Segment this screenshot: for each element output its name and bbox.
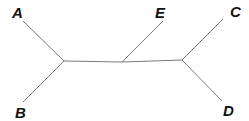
edge-leaf-b — [23, 61, 64, 102]
edge-leaf-e — [122, 21, 163, 62]
leaf-edges — [23, 19, 223, 102]
phylogenetic-tree: A B E C D — [0, 0, 249, 121]
leaf-label-c: C — [230, 3, 242, 20]
edge-n1-n2 — [64, 61, 122, 62]
leaf-label-e: E — [155, 4, 166, 21]
leaf-label-a: A — [11, 4, 23, 21]
edge-n2-n3 — [122, 60, 182, 62]
edge-leaf-d — [182, 60, 222, 101]
edge-leaf-a — [23, 21, 64, 61]
edge-leaf-c — [182, 19, 223, 60]
leaf-label-d: D — [223, 102, 234, 119]
leaf-label-b: B — [15, 104, 26, 121]
